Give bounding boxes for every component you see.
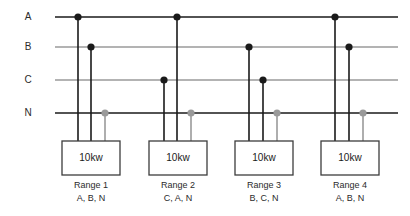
connection-dot-range1-a [74, 13, 81, 20]
connection-dot-range1-n [101, 109, 108, 116]
load-boxes-group [62, 141, 379, 175]
connection-dot-range2-c [160, 76, 167, 83]
range-phases-3: B, C, N [249, 193, 278, 203]
connection-dot-range4-n [359, 109, 366, 116]
range-phases-4: A, B, N [336, 193, 365, 203]
connection-dot-range3-n [273, 109, 280, 116]
single-line-diagram: ABCN10kwRange 1A, B, N10kwRange 2C, A, N… [0, 0, 410, 216]
connection-dot-range4-a [331, 13, 338, 20]
range-phases-1: A, B, N [77, 193, 106, 203]
load-rating-range3: 10kw [252, 152, 276, 163]
connection-dot-range1-b [87, 43, 94, 50]
range-name-2: Range 2 [161, 180, 195, 190]
drop-lines-group [78, 17, 363, 141]
load-rating-range2: 10kw [166, 152, 190, 163]
connection-dot-range4-b [345, 43, 352, 50]
range-name-4: Range 4 [333, 180, 367, 190]
connection-dot-range3-b [245, 43, 252, 50]
connection-dots-group [74, 13, 366, 116]
bus-lines-group [55, 17, 398, 113]
range-phases-2: C, A, N [164, 193, 193, 203]
range-name-1: Range 1 [74, 180, 108, 190]
range-name-3: Range 3 [247, 180, 281, 190]
connection-dot-range2-a [173, 13, 180, 20]
bus-label-b: B [25, 41, 32, 52]
load-rating-range1: 10kw [79, 152, 103, 163]
diagram-canvas: ABCN10kwRange 1A, B, N10kwRange 2C, A, N… [0, 0, 410, 216]
bus-label-a: A [25, 11, 32, 22]
load-rating-range4: 10kw [338, 152, 362, 163]
bus-label-n: N [24, 107, 31, 118]
connection-dot-range2-n [187, 109, 194, 116]
bus-label-c: C [24, 74, 31, 85]
connection-dot-range3-c [259, 76, 266, 83]
